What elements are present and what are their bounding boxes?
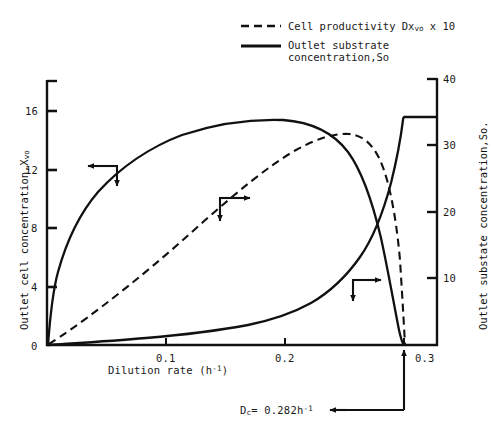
- legend-productivity-main: Cell productivity Dx: [288, 20, 414, 32]
- arrow-annotation-productivity-right: [219, 197, 250, 221]
- y-right-tick-40: 40: [443, 73, 456, 85]
- chart-canvas: [0, 0, 491, 438]
- y-left-axis-title-main: Outlet cell concentration,X: [18, 159, 30, 330]
- y-left-axis-title: Outlet cell concentration,Xvo: [18, 150, 31, 330]
- x-tick-0.3: 0.3: [415, 352, 435, 364]
- critical-dilution-annotation: Dc= 0.282h-1: [240, 404, 313, 417]
- critical-dilution-leader: [330, 350, 404, 410]
- legend-substrate-line2: concentration,So: [288, 51, 389, 63]
- figure-container: Cell productivity Dxvo x 10 Outlet subst…: [0, 0, 491, 438]
- x-axis-title-main: Dilution rate (h: [108, 364, 212, 376]
- x-tick-0.1: 0.1: [156, 352, 176, 364]
- legend-item-productivity: Cell productivity Dxvo x 10: [288, 20, 455, 35]
- y-left-axis-title-sub: vo: [22, 150, 31, 159]
- y-left-tick-16: 16: [25, 105, 38, 117]
- legend-productivity-tail: x 10: [423, 20, 455, 32]
- y-left-tick-4: 4: [31, 281, 38, 293]
- x-tick-0.2: 0.2: [275, 352, 295, 364]
- legend-substrate-line1: Outlet substrate: [288, 39, 389, 51]
- x-axis-title-tail: ): [222, 364, 229, 376]
- y-left-tick-0: 0: [31, 340, 38, 352]
- y-right-tick-20: 20: [443, 206, 456, 218]
- legend-item-substrate: Outlet substrate concentration,So: [288, 39, 389, 63]
- curve-outlet-substrate: [48, 117, 404, 345]
- x-axis-title: Dilution rate (h-1): [108, 364, 228, 376]
- arrow-annotation-substrate-right: [352, 279, 381, 301]
- curve-cell-concentration: [48, 120, 404, 345]
- y-right-tick-30: 30: [443, 139, 456, 151]
- x-axis-title-sup: -1: [212, 364, 221, 373]
- y-right-axis-title: Outlet substate concentration,So.: [477, 121, 489, 330]
- y-left-tick-8: 8: [31, 222, 38, 234]
- critical-dilution-exponent: -1: [303, 404, 312, 413]
- y-right-tick-10: 10: [443, 272, 456, 284]
- critical-dilution-value: = 0.282h: [251, 404, 303, 416]
